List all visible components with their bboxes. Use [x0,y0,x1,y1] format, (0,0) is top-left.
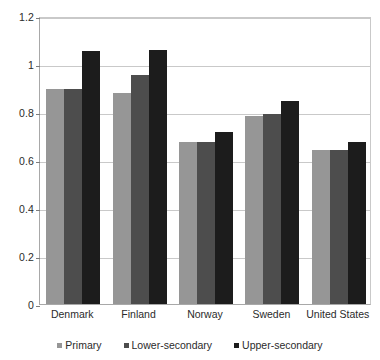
bar[interactable] [64,89,82,304]
x-axis-category-label: Denmark [39,307,105,321]
bar[interactable] [330,150,348,304]
bar[interactable] [82,51,100,304]
y-axis-tick-label: 0.6 [0,156,34,166]
x-axis-category-label: Norway [172,307,238,321]
legend-swatch-icon [124,343,129,348]
bar[interactable] [179,142,197,304]
plot-area [39,17,371,305]
legend-swatch-icon [57,343,62,348]
bar[interactable] [149,50,167,304]
chart-legend: PrimaryLower-secondaryUpper-secondary [0,337,380,353]
x-axis-category-label: United States [305,307,371,321]
legend-label: Lower-secondary [132,340,213,351]
legend-item[interactable]: Upper-secondary [234,340,323,351]
x-axis-labels: DenmarkFinlandNorwaySwedenUnited States [39,307,371,323]
bar-groups [40,18,370,304]
legend-item[interactable]: Primary [57,340,101,351]
y-axis-tick-label: 0 [0,300,34,310]
bar-chart: 00.20.40.60.811.2 DenmarkFinlandNorwaySw… [0,0,380,360]
bar[interactable] [245,116,263,304]
x-axis-category-label: Finland [105,307,171,321]
legend-label: Primary [65,340,101,351]
bar-group [245,18,299,304]
x-axis-category-label: Sweden [238,307,304,321]
bar[interactable] [263,114,281,304]
legend-swatch-icon [234,343,239,348]
bar-group [113,18,167,304]
y-axis-tick-label: 0.8 [0,108,34,118]
bar-group [312,18,366,304]
legend-item[interactable]: Lower-secondary [124,340,213,351]
bar[interactable] [281,101,299,304]
bar[interactable] [312,150,330,304]
y-axis-labels: 00.20.40.60.811.2 [0,0,34,360]
y-axis-tick-label: 1.2 [0,12,34,22]
bar[interactable] [215,132,233,304]
bar[interactable] [197,142,215,304]
bar[interactable] [131,75,149,304]
bar[interactable] [348,142,366,304]
legend-label: Upper-secondary [242,340,323,351]
y-axis-tick-label: 0.2 [0,252,34,262]
bar[interactable] [113,93,131,304]
y-axis-tick-label: 0.4 [0,204,34,214]
bar[interactable] [46,89,64,304]
bar-group [46,18,100,304]
y-axis-tick-label: 1 [0,60,34,70]
bar-group [179,18,233,304]
